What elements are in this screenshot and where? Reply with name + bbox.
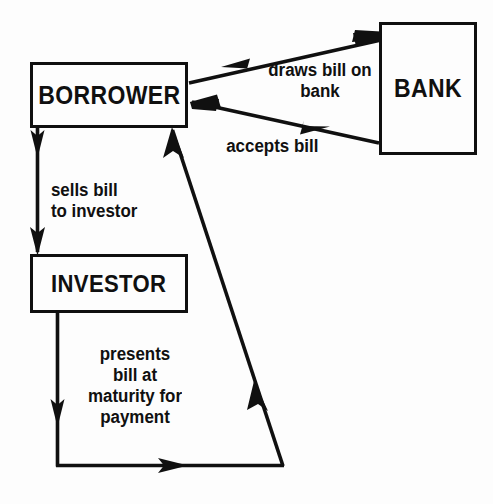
edge-label-draws-bill-on-bank: draws bill on bank: [259, 60, 381, 102]
edge-sells-bill-to-investor: [30, 127, 45, 256]
node-borrower[interactable]: BORROWER: [30, 62, 188, 128]
edge-accepts-end-arrowhead-fill: [190, 95, 221, 109]
node-bank-label: BANK: [394, 74, 462, 103]
edge-label-accepts-bill: accepts bill: [226, 136, 358, 157]
node-bank[interactable]: BANK: [379, 22, 477, 155]
edge-presents-end-arrowhead: [163, 127, 184, 158]
edge-label-sells-bill-to-investor: sells bill to investor: [51, 180, 173, 222]
node-investor[interactable]: INVESTOR: [30, 254, 188, 313]
node-investor-label: INVESTOR: [51, 270, 166, 298]
flow-diagram: BORROWER BANK INVESTOR draws bill on ban…: [0, 0, 493, 504]
edge-label-presents-bill-at-maturity: presents bill at maturity for payment: [74, 344, 196, 428]
node-borrower-label: BORROWER: [38, 81, 180, 110]
